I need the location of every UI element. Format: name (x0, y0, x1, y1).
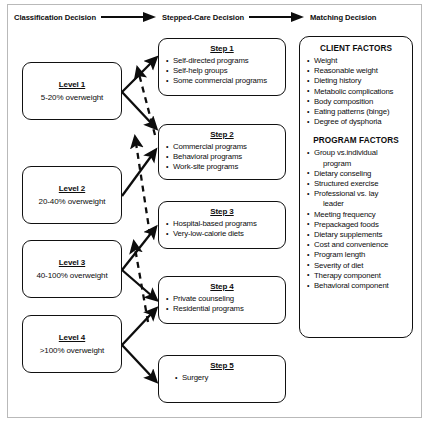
list-item: Program length (307, 250, 412, 260)
level-box-3[interactable]: Level 3 40-100% overweight (22, 240, 122, 298)
list-item: Prepackaged foods (307, 220, 412, 230)
list-item: Surgery (175, 373, 285, 383)
program-factors-list: Group vs.individual program Dietary cons… (300, 148, 412, 291)
list-item: Degree of dysphoria (307, 117, 412, 127)
list-item: Metabolic complications (307, 87, 412, 97)
diagram-canvas: Classification Decision Stepped-Care Dec… (0, 0, 430, 429)
list-item: Body composition (307, 97, 412, 107)
list-item: Behavioral component (307, 281, 412, 291)
step-box-4[interactable]: Step 4 Private counseling Residential pr… (158, 276, 286, 324)
level-title: Level 1 (59, 80, 85, 89)
level-subtitle: 20-40% overweight (39, 197, 106, 206)
step-title: Step 5 (159, 361, 285, 370)
step-box-1[interactable]: Step 1 Self-directed programs Self-help … (158, 38, 286, 96)
list-item: Severity of diet (307, 261, 412, 271)
step-item-list: Surgery (159, 373, 285, 383)
client-factors-list: Weight Reasonable weight Dieting history… (300, 56, 412, 127)
step-box-2[interactable]: Step 2 Commercial programs Behavioral pr… (158, 124, 286, 180)
list-item: Self-directed programs (166, 56, 285, 66)
list-item: Residential programs (166, 304, 285, 314)
list-item: Private counseling (166, 294, 285, 304)
step-title: Step 1 (159, 44, 285, 53)
step-item-list: Private counseling Residential programs (159, 294, 285, 314)
level-subtitle: 5-20% overweight (41, 93, 103, 102)
client-factors-heading: CLIENT FACTORS (300, 44, 412, 53)
level-subtitle: >100% overweight (40, 346, 104, 355)
list-item: Self-help groups (166, 66, 285, 76)
list-item: Meeting frequency (307, 210, 412, 220)
list-item: Eating patterns (binge) (307, 107, 412, 117)
list-item-continuation: program (307, 159, 412, 169)
list-item: Therapy component (307, 271, 412, 281)
list-item: Some commercial programs (166, 76, 285, 86)
step-item-list: Self-directed programs Self-help groups … (159, 56, 285, 87)
header-step-classification: Classification Decision (14, 13, 96, 22)
step-title: Step 4 (159, 282, 285, 291)
list-item: Weight (307, 56, 412, 66)
level-title: Level 4 (59, 333, 85, 342)
list-item: Reasonable weight (307, 66, 412, 76)
level-box-1[interactable]: Level 1 5-20% overweight (22, 62, 122, 120)
step-item-list: Hospital-based programs Very-low-calorie… (159, 219, 285, 239)
list-item: Dietary conseling (307, 169, 412, 179)
step-box-3[interactable]: Step 3 Hospital-based programs Very-low-… (158, 201, 286, 249)
right-arrow-icon (249, 12, 305, 22)
program-factors-heading: PROGRAM FACTORS (300, 136, 412, 145)
list-item: Cost and convenience (307, 240, 412, 250)
step-title: Step 2 (159, 130, 285, 139)
right-arrow-icon (101, 12, 157, 22)
decision-flow-header: Classification Decision Stepped-Care Dec… (14, 8, 418, 26)
list-item: Hospital-based programs (166, 219, 285, 229)
level-box-4[interactable]: Level 4 >100% overweight (22, 315, 122, 373)
level-subtitle: 40-100% overweight (36, 271, 107, 280)
factors-panel[interactable]: CLIENT FACTORS Weight Reasonable weight … (299, 36, 413, 338)
list-item: Professional vs. lay (307, 189, 412, 199)
header-step-matching: Matching Decision (310, 13, 376, 22)
list-item: Very-low-calorie diets (166, 229, 285, 239)
list-item: Dieting history (307, 76, 412, 86)
level-title: Level 3 (59, 258, 85, 267)
list-item: Structured exercise (307, 179, 412, 189)
header-step-stepped-care: Stepped-Care Decision (162, 13, 244, 22)
step-item-list: Commercial programs Behavioral programs … (159, 142, 285, 173)
level-box-2[interactable]: Level 2 20-40% overweight (22, 166, 122, 224)
list-item: Dietary supplements (307, 230, 412, 240)
list-item: Commercial programs (166, 142, 285, 152)
step-title: Step 3 (159, 207, 285, 216)
list-item-continuation: leader (307, 199, 412, 209)
level-title: Level 2 (59, 184, 85, 193)
list-item: Group vs.individual (307, 148, 412, 158)
list-item: Work-site programs (166, 162, 285, 172)
step-box-5[interactable]: Step 5 Surgery (158, 355, 286, 403)
list-item: Behavioral programs (166, 152, 285, 162)
